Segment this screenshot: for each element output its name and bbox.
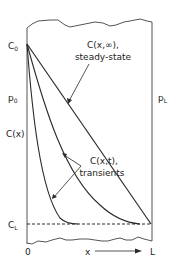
cx-label: C(x)	[6, 129, 25, 139]
transients-arrow-lower	[54, 166, 81, 197]
transients-title: C(x,t),	[90, 156, 118, 166]
steady-state-subtitle: steady-state	[75, 52, 132, 62]
p0-label: p0	[8, 93, 18, 104]
top-wavy-edge	[27, 19, 152, 28]
steady-state-arrow	[69, 64, 89, 101]
x-axis-arrowhead	[135, 249, 142, 254]
x-axis-label: x	[85, 247, 91, 257]
transients-subtitle: transients	[79, 168, 124, 178]
transient-curve-late	[27, 44, 140, 224]
steady-state-title: C(x,∞),	[87, 40, 119, 50]
c0-label: C0	[8, 41, 18, 52]
origin-label: 0	[25, 247, 31, 257]
pl-label: pL	[158, 93, 168, 104]
diffusion-diagram: C0 p0 C(x) CL pL 0 x L C(x,∞), steady-st…	[0, 0, 172, 271]
bottom-wavy-edge	[27, 237, 152, 244]
steady-state-curve	[27, 44, 151, 224]
length-label: L	[150, 247, 155, 257]
transients-arrow-upper	[64, 155, 81, 166]
cl-label: CL	[8, 220, 18, 231]
